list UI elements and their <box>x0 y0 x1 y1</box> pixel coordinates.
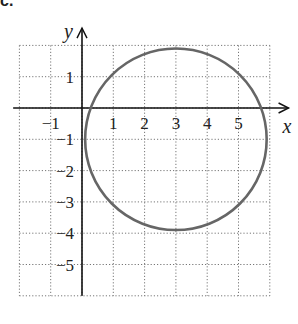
y-tick-label: −3 <box>56 193 74 212</box>
y-tick-label: −2 <box>56 162 74 181</box>
x-tick-label: 2 <box>140 114 149 133</box>
part-label: c. <box>0 0 13 9</box>
x-tick-label: 3 <box>172 114 181 133</box>
y-tick-label: 1 <box>66 68 75 87</box>
y-axis-label: y <box>62 20 73 43</box>
axes <box>13 28 288 296</box>
x-tick-label: 1 <box>109 114 118 133</box>
x-tick-label: 5 <box>234 114 243 133</box>
y-tick-label: −1 <box>56 130 74 149</box>
y-tick-label: −4 <box>56 224 75 243</box>
coordinate-plane: c. −1123451−1−2−3−4−5 x y <box>0 0 298 324</box>
y-tick-label: −5 <box>56 256 74 275</box>
x-axis-label: x <box>282 115 292 137</box>
x-tick-label: 4 <box>203 114 212 133</box>
